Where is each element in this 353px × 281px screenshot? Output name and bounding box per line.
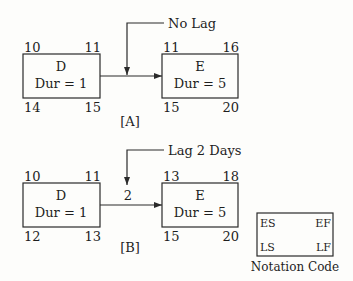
- a-e-name: E: [195, 60, 205, 73]
- notation-ef: EF: [315, 218, 331, 229]
- b-e-lf: 20: [222, 230, 239, 243]
- a-d-es: 10: [24, 41, 41, 54]
- b-d-lf: 13: [84, 230, 101, 243]
- notation-es: ES: [260, 218, 276, 229]
- notation-lf: LF: [316, 242, 331, 253]
- a-d-lf: 15: [84, 101, 101, 114]
- a-caption: [A]: [120, 115, 140, 128]
- notation-ls: LS: [260, 242, 275, 253]
- a-e-ef: 16: [222, 41, 239, 54]
- b-d-es: 10: [24, 170, 41, 183]
- a-e-duration: Dur = 5: [174, 77, 226, 90]
- a-d-ls: 14: [24, 101, 41, 114]
- b-lag-value: 2: [124, 189, 132, 202]
- b-e-name: E: [195, 189, 205, 202]
- a-d-name: D: [56, 60, 66, 73]
- b-e-ls: 15: [163, 230, 180, 243]
- a-lag-callout: [127, 23, 164, 75]
- a-lag-label: No Lag: [168, 17, 216, 30]
- a-d-duration: Dur = 1: [35, 77, 87, 90]
- b-lag-callout: [127, 150, 164, 185]
- b-d-name: D: [56, 189, 66, 202]
- a-e-es: 11: [163, 41, 180, 54]
- b-e-es: 13: [163, 170, 180, 183]
- a-e-lf: 20: [222, 101, 239, 114]
- b-e-ef: 18: [222, 170, 239, 183]
- b-d-ls: 12: [24, 230, 41, 243]
- a-e-ls: 15: [163, 101, 180, 114]
- b-d-duration: Dur = 1: [35, 206, 87, 219]
- b-d-ef: 11: [84, 170, 101, 183]
- b-e-duration: Dur = 5: [174, 206, 226, 219]
- a-d-ef: 11: [84, 41, 101, 54]
- b-lag-label: Lag 2 Days: [168, 144, 241, 157]
- notation-caption: Notation Code: [251, 261, 339, 273]
- b-caption: [B]: [120, 241, 140, 254]
